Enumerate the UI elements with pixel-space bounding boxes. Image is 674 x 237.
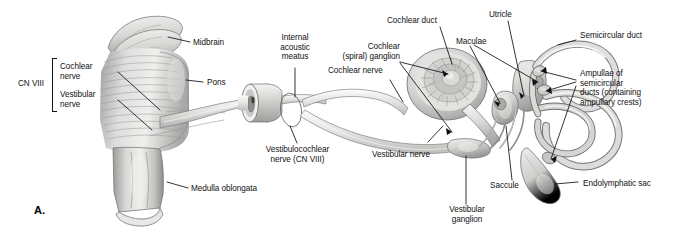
pons-shape	[100, 48, 189, 153]
cn-viii-bracket	[52, 58, 57, 112]
label-medulla-oblongata: Medulla oblongata	[191, 184, 257, 194]
label-vestibular-nerve-brainstem: Vestibular nerve	[60, 90, 95, 109]
label-vestibular-ganglion: Vestibular ganglion	[432, 205, 502, 224]
label-vestibular-nerve: Vestibular nerve	[372, 150, 430, 160]
label-endolymphatic-sac: Endolymphatic sac	[583, 179, 651, 189]
label-ampullae: Ampullae of semicircular ducts (containi…	[580, 69, 641, 107]
label-pons: Pons	[207, 78, 225, 88]
anatomy-figure: CN VIII Cochlear nerve Vestibular nerve …	[0, 0, 674, 237]
label-vestibulocochlear-nerve: Vestibulocochlear nerve (CN VIII)	[245, 145, 350, 164]
label-midbrain: Midbrain	[193, 38, 224, 48]
label-maculae: Maculae	[456, 37, 487, 47]
label-semicircular-duct: Semicircular duct	[580, 31, 642, 41]
cochlea-shape	[407, 48, 500, 146]
label-utricle: Utricle	[489, 10, 512, 20]
medulla-shape	[113, 147, 163, 226]
label-cn-viii: CN VIII	[18, 79, 44, 89]
label-cochlear-nerve: Cochlear nerve	[328, 66, 383, 76]
label-cochlear-nerve-brainstem: Cochlear nerve	[60, 62, 92, 81]
label-saccule: Saccule	[490, 181, 519, 191]
anatomy-illustration	[0, 0, 674, 237]
label-cochlear-duct: Cochlear duct	[387, 16, 437, 26]
panel-letter: A.	[34, 204, 45, 216]
label-cochlear-spiral-ganglion: Cochlear (spiral) ganglion	[300, 42, 400, 61]
